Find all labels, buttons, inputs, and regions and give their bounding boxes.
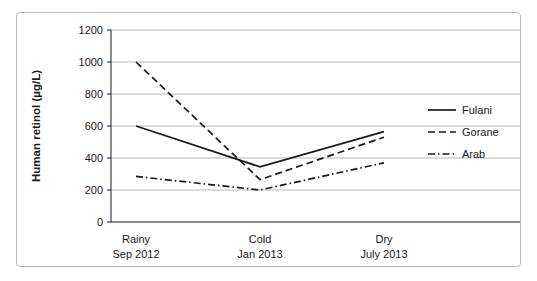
legend-label-gorane: Gorane — [462, 126, 499, 138]
y-tick-label-200: 200 — [85, 184, 103, 196]
x-label-cold: Cold — [249, 233, 272, 245]
x-label-dry: Dry — [375, 233, 393, 245]
y-tick-label-800: 800 — [85, 88, 103, 100]
y-tick-label-1200: 1200 — [79, 24, 103, 36]
y-tick-label-1000: 1000 — [79, 56, 103, 68]
y-tick-labels: 020040060080010001200 — [79, 24, 103, 228]
x-sublabel-dry: July 2013 — [360, 248, 407, 260]
series-line-fulani — [136, 126, 384, 167]
x-sublabel-rainy: Sep 2012 — [112, 248, 159, 260]
y-tick-label-400: 400 — [85, 152, 103, 164]
legend: FulaniGoraneArab — [428, 104, 499, 160]
x-category-labels: RainySep 2012ColdJan 2013DryJuly 2013 — [112, 233, 407, 260]
x-sublabel-cold: Jan 2013 — [237, 248, 282, 260]
gridline-group — [111, 30, 520, 222]
series-line-gorane — [136, 62, 384, 180]
x-label-rainy: Rainy — [122, 233, 151, 245]
legend-label-fulani: Fulani — [462, 104, 492, 116]
retinol-line-chart: 020040060080010001200 Human retinol (µg/… — [0, 0, 537, 281]
y-tick-group — [107, 30, 111, 222]
figure-container: 020040060080010001200 Human retinol (µg/… — [0, 0, 537, 281]
y-tick-label-600: 600 — [85, 120, 103, 132]
y-axis-title: Human retinol (µg/L) — [30, 70, 42, 182]
legend-label-arab: Arab — [462, 148, 485, 160]
y-tick-label-0: 0 — [97, 216, 103, 228]
